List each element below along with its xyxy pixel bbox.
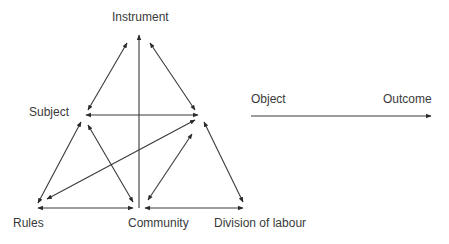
activity-triangle-diagram xyxy=(0,0,449,244)
edge-right-rules xyxy=(47,120,195,199)
node-outcome: Outcome xyxy=(383,92,432,106)
node-community: Community xyxy=(128,216,189,230)
node-object: Object xyxy=(251,92,286,106)
node-instrument: Instrument xyxy=(112,10,169,24)
edge-right-community xyxy=(148,134,192,200)
edge-subject-community xyxy=(88,125,133,202)
edge-instrument-subject xyxy=(88,43,127,110)
node-subject: Subject xyxy=(29,105,69,119)
edge-subject-rules xyxy=(38,122,81,203)
edge-instrument-right xyxy=(150,43,195,110)
node-rules: Rules xyxy=(13,216,44,230)
node-division-of-labour: Division of labour xyxy=(214,216,306,230)
edge-right-division xyxy=(204,122,243,202)
